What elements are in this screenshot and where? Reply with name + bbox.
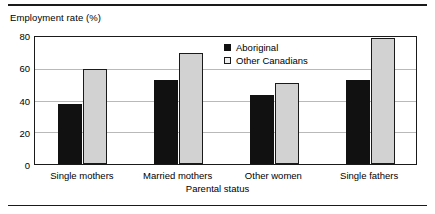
y-axis-tick-label: 20 (0, 127, 30, 138)
bar-group (35, 37, 131, 164)
bar-group (131, 37, 227, 164)
x-axis-tick-label: Married mothers (143, 170, 212, 181)
bar (83, 69, 107, 164)
legend: AboriginalOther Canadians (224, 41, 308, 67)
legend-label: Other Canadians (236, 54, 308, 67)
y-axis-tick-labels: 020406080 (0, 36, 30, 165)
legend-swatch-icon (224, 57, 231, 64)
bar (154, 80, 178, 164)
y-axis-tick-label: 80 (0, 31, 30, 42)
legend-swatch-icon (224, 44, 231, 51)
y-axis-title: Employment rate (%) (10, 12, 101, 23)
legend-item: Aboriginal (224, 41, 308, 54)
bar (58, 104, 82, 164)
top-divider-rule (8, 4, 427, 6)
bar (346, 80, 370, 164)
y-axis-tick-label: 40 (0, 95, 30, 106)
x-axis-title: Parental status (0, 183, 435, 194)
y-axis-tick-label: 60 (0, 63, 30, 74)
bar-group (322, 37, 418, 164)
bar (250, 95, 274, 164)
legend-item: Other Canadians (224, 54, 308, 67)
x-axis-tick-label: Single mothers (50, 170, 113, 181)
bar (275, 83, 299, 164)
bar (179, 53, 203, 164)
x-axis-tick-label: Other women (245, 170, 302, 181)
y-axis-tick-label: 0 (0, 160, 30, 171)
x-axis-tick-labels: Single mothersMarried mothersOther women… (34, 170, 417, 184)
legend-label: Aboriginal (236, 41, 278, 54)
x-axis-tick-label: Single fathers (340, 170, 398, 181)
bar (371, 38, 395, 164)
bottom-divider-rule (8, 205, 427, 206)
chart-figure: Employment rate (%) 020406080 Aboriginal… (0, 0, 435, 214)
